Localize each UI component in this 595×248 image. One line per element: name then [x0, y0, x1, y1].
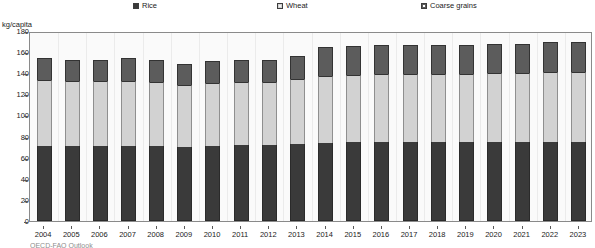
y-tick-mark	[24, 138, 28, 139]
chart-plot-wrapper: 020406080100120140160180 200420052006200…	[0, 28, 595, 228]
bar-segment-wheat	[65, 81, 80, 146]
chart-footnote: OECD-FAO Outlook	[30, 242, 590, 248]
bar-2020[interactable]	[487, 44, 502, 221]
bar-2019[interactable]	[459, 45, 474, 221]
bar-segment-coarse	[149, 60, 164, 82]
legend-item-coarse-grains[interactable]: Coarse grains	[421, 2, 477, 10]
x-tick-mark	[578, 226, 579, 229]
bar-segment-rice	[374, 142, 389, 221]
bar-segment-wheat	[571, 72, 586, 142]
bar-segment-wheat	[403, 74, 418, 142]
x-tick-mark	[409, 226, 410, 229]
bar-segment-coarse	[431, 45, 446, 75]
x-tick-label: 2008	[141, 230, 171, 239]
x-tick-label: 2022	[535, 230, 565, 239]
y-tick-mark	[24, 159, 28, 160]
filled-square-icon	[133, 3, 139, 9]
bar-segment-rice	[403, 142, 418, 221]
grid-line	[537, 33, 538, 221]
bar-segment-coarse	[65, 60, 80, 81]
grid-line	[171, 33, 172, 221]
bar-segment-wheat	[93, 81, 108, 146]
bar-segment-rice	[459, 142, 474, 221]
bar-2012[interactable]	[262, 60, 277, 221]
bar-segment-wheat	[346, 75, 361, 142]
bar-2022[interactable]	[543, 42, 558, 221]
x-tick-mark	[325, 226, 326, 229]
bar-segment-coarse	[37, 58, 52, 79]
bar-segment-wheat	[290, 79, 305, 144]
bar-segment-rice	[177, 147, 192, 221]
bar-2008[interactable]	[149, 60, 164, 221]
bar-2015[interactable]	[346, 46, 361, 221]
grid-line	[143, 33, 144, 221]
y-tick-mark	[24, 95, 28, 96]
x-tick-mark	[465, 226, 466, 229]
y-tick-mark	[24, 53, 28, 54]
grid-line	[509, 33, 510, 221]
grid-line	[283, 33, 284, 221]
bar-2006[interactable]	[93, 60, 108, 221]
grid-line	[86, 33, 87, 221]
y-tick-mark	[24, 74, 28, 75]
grid-line	[452, 33, 453, 221]
bar-segment-coarse	[346, 46, 361, 76]
bar-segment-coarse	[459, 45, 474, 75]
legend-item-label: Coarse grains	[430, 2, 477, 10]
x-tick-label: 2015	[338, 230, 368, 239]
grid-line	[227, 33, 228, 221]
bar-segment-coarse	[121, 58, 136, 80]
bar-2014[interactable]	[318, 47, 333, 221]
bar-segment-rice	[515, 142, 530, 221]
bar-segment-rice	[346, 142, 361, 221]
x-tick-mark	[296, 226, 297, 229]
bar-segment-wheat	[431, 74, 446, 142]
bar-segment-rice	[121, 146, 136, 221]
bar-segment-coarse	[93, 60, 108, 81]
bar-2004[interactable]	[37, 58, 52, 221]
bar-2021[interactable]	[515, 44, 530, 221]
bar-2017[interactable]	[403, 45, 418, 221]
bar-segment-rice	[487, 142, 502, 221]
legend-item-rice[interactable]: Rice	[133, 2, 157, 10]
bar-segment-rice	[571, 142, 586, 221]
bar-2013[interactable]	[290, 56, 305, 221]
x-tick-mark	[240, 226, 241, 229]
bar-segment-wheat	[459, 74, 474, 142]
bar-2023[interactable]	[571, 42, 586, 221]
bar-segment-coarse	[205, 61, 220, 83]
x-tick-label: 2009	[169, 230, 199, 239]
x-tick-mark	[99, 226, 100, 229]
x-tick-mark	[268, 226, 269, 229]
x-tick-mark	[353, 226, 354, 229]
x-tick-mark	[437, 226, 438, 229]
y-tick-mark	[24, 32, 28, 33]
bar-segment-coarse	[571, 42, 586, 73]
bar-segment-rice	[93, 146, 108, 221]
bar-segment-wheat	[149, 82, 164, 146]
legend-item-label: Wheat	[286, 2, 308, 10]
bar-segment-rice	[205, 146, 220, 221]
x-tick-label: 2019	[450, 230, 480, 239]
x-tick-mark	[493, 226, 494, 229]
bar-2010[interactable]	[205, 61, 220, 221]
bar-segment-rice	[262, 145, 277, 221]
legend-item-label: Rice	[142, 2, 157, 10]
grid-line	[58, 33, 59, 221]
legend-item-wheat[interactable]: Wheat	[277, 2, 308, 10]
bar-2005[interactable]	[65, 60, 80, 221]
y-axis: 020406080100120140160180	[0, 28, 29, 226]
x-tick-label: 2018	[422, 230, 452, 239]
bar-segment-coarse	[374, 45, 389, 75]
bar-2007[interactable]	[121, 58, 136, 221]
bar-2018[interactable]	[431, 45, 446, 221]
x-tick-label: 2016	[366, 230, 396, 239]
bar-2009[interactable]	[177, 64, 192, 221]
bar-2011[interactable]	[234, 60, 249, 221]
x-tick-mark	[156, 226, 157, 229]
bar-2016[interactable]	[374, 45, 389, 221]
grid-line	[396, 33, 397, 221]
plot-area	[29, 32, 592, 222]
bar-segment-rice	[234, 145, 249, 221]
grid-line	[199, 33, 200, 221]
